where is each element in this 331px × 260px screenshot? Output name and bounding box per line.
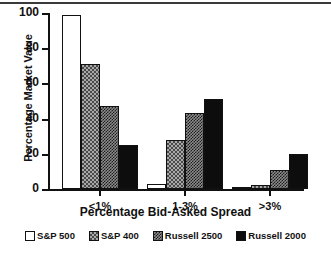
legend-label: S&P 500	[37, 230, 75, 241]
legend-label: Russell 2500	[165, 230, 223, 241]
chart-legend: S&P 500S&P 400Russell 2500Russell 2000	[0, 230, 331, 241]
x-tick-0	[99, 189, 101, 196]
y-axis-title: Percentage Market Value	[22, 8, 34, 188]
y-tick-label-0: 0	[32, 181, 39, 195]
y-tick-100: 100	[42, 13, 48, 15]
bar	[166, 140, 185, 189]
y-tick-label-80: 80	[26, 40, 39, 54]
legend-swatch-icon	[236, 231, 246, 241]
y-tick-label-20: 20	[26, 146, 39, 160]
bar-chart-figure: Percentage Market Value 020406080100 <1%…	[0, 0, 331, 260]
legend-item: S&P 400	[89, 230, 139, 241]
y-tick-label-40: 40	[26, 111, 39, 125]
x-axis-line	[48, 189, 304, 191]
legend-swatch-icon	[25, 231, 35, 241]
bar	[81, 64, 100, 189]
x-axis-title: Percentage Bid-Asked Spread	[0, 205, 331, 219]
legend-item: Russell 2500	[153, 230, 223, 241]
bar	[62, 15, 81, 189]
y-tick-40: 40	[42, 119, 48, 121]
bar	[232, 187, 251, 189]
bar	[204, 99, 223, 189]
bar	[119, 145, 138, 189]
y-tick-20: 20	[42, 154, 48, 156]
legend-item: S&P 500	[25, 230, 75, 241]
bar	[100, 106, 119, 189]
bar	[270, 170, 289, 189]
bar	[289, 154, 308, 189]
plot-area: 020406080100 <1%1-3%>3%	[48, 13, 301, 191]
x-tick-1	[184, 189, 186, 196]
bar	[251, 185, 270, 189]
y-tick-0: 0	[42, 189, 48, 191]
legend-swatch-icon	[89, 231, 99, 241]
bar	[147, 184, 166, 189]
legend-item: Russell 2000	[236, 230, 306, 241]
x-tick-2	[269, 189, 271, 196]
legend-swatch-icon	[153, 231, 163, 241]
y-tick-label-60: 60	[26, 75, 39, 89]
y-axis-line	[48, 13, 50, 191]
y-tick-60: 60	[42, 83, 48, 85]
legend-label: S&P 400	[101, 230, 139, 241]
y-tick-80: 80	[42, 48, 48, 50]
y-tick-label-100: 100	[19, 5, 39, 19]
legend-label: Russell 2000	[248, 230, 306, 241]
bar	[185, 113, 204, 189]
